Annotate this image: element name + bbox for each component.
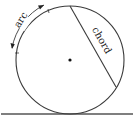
circle-diagram: arc chord bbox=[0, 0, 133, 118]
chord-label: chord bbox=[90, 25, 114, 56]
arrow-head-bottom-icon bbox=[11, 43, 15, 49]
diagram-canvas: arc chord bbox=[0, 0, 133, 118]
arrow-head-top-icon bbox=[38, 5, 44, 10]
arc-end-tick-top bbox=[48, 9, 49, 13]
center-point bbox=[68, 58, 71, 61]
